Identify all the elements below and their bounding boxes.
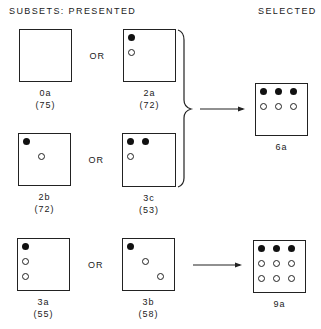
brace-icon xyxy=(178,30,191,187)
connectors xyxy=(0,0,321,329)
arrow-icon-top xyxy=(200,107,245,112)
arrow-icon-bottom xyxy=(193,263,242,268)
